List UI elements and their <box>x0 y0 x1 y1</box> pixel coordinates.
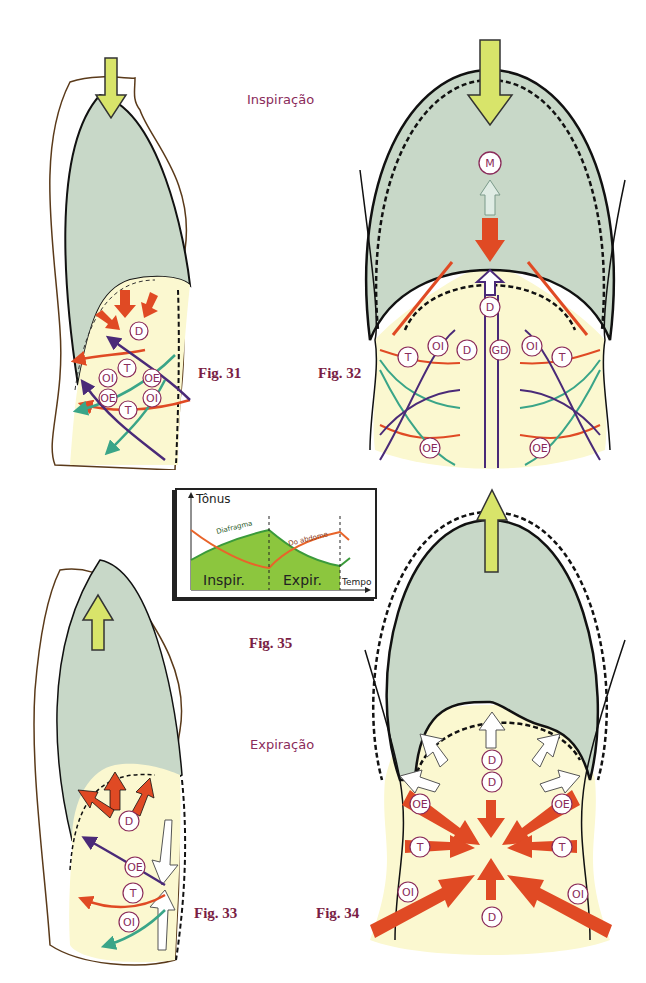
svg-text:OI: OI <box>572 888 584 901</box>
svg-text:T: T <box>124 404 132 417</box>
svg-text:T: T <box>416 841 424 854</box>
svg-text:OE: OE <box>100 392 116 405</box>
svg-text:Do abdome: Do abdome <box>288 530 329 548</box>
svg-text:Diafragma: Diafragma <box>216 519 254 536</box>
figure-33-illustration: D OE T OI <box>0 470 200 983</box>
svg-text:M: M <box>485 157 495 170</box>
svg-text:OE: OE <box>127 861 143 874</box>
svg-text:D: D <box>488 911 496 924</box>
figure-31-illustration: D T OI OE OE T OI <box>0 0 200 470</box>
svg-text:OI: OI <box>432 340 444 353</box>
svg-text:D: D <box>135 325 143 338</box>
svg-text:D: D <box>488 776 496 789</box>
svg-text:D: D <box>125 815 133 828</box>
svg-text:GD: GD <box>492 344 509 357</box>
caption-fig33: Fig. 33 <box>194 905 237 922</box>
figure-34-illustration: D D OE OE T T OI OI D <box>340 480 640 983</box>
svg-text:OI: OI <box>526 340 538 353</box>
phase-label-expiration: Expiração <box>250 737 314 752</box>
svg-text:OI: OI <box>402 886 414 899</box>
svg-text:OE: OE <box>412 798 428 811</box>
svg-text:OE: OE <box>144 372 160 385</box>
caption-fig31: Fig. 31 <box>198 365 241 382</box>
svg-text:OE: OE <box>554 798 570 811</box>
svg-text:D: D <box>488 754 496 767</box>
svg-text:T: T <box>558 351 566 364</box>
svg-text:OI: OI <box>102 372 114 385</box>
svg-text:T: T <box>558 841 566 854</box>
svg-text:T: T <box>123 362 131 375</box>
caption-fig35: Fig. 35 <box>249 635 292 652</box>
svg-text:Inspir.: Inspir. <box>203 572 245 588</box>
svg-text:OI: OI <box>146 392 158 405</box>
svg-text:OE: OE <box>422 442 438 455</box>
phase-label-inspiration: Inspiração <box>247 92 314 107</box>
figure-32-illustration: M D T OI D GD OI T OE OE <box>340 30 640 480</box>
svg-text:Tônus: Tônus <box>195 492 231 506</box>
svg-text:T: T <box>404 351 412 364</box>
svg-text:D: D <box>463 344 471 357</box>
svg-text:OE: OE <box>532 442 548 455</box>
svg-text:OI: OI <box>123 916 135 929</box>
svg-text:Expir.: Expir. <box>283 572 322 588</box>
svg-text:D: D <box>486 301 494 314</box>
svg-text:T: T <box>129 887 137 900</box>
